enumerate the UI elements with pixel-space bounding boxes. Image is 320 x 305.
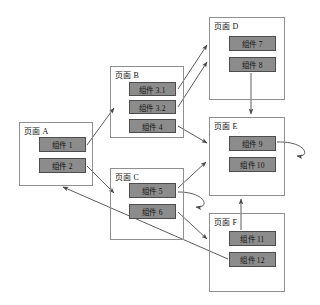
component-c10[interactable]: 组件 10 (229, 157, 276, 172)
component-c6[interactable]: 组件 6 (129, 204, 176, 219)
component-c4[interactable]: 组件 4 (129, 119, 176, 133)
component-c12[interactable]: 组件 12 (229, 252, 276, 267)
page-label-f: 页面 F (214, 216, 237, 227)
page-label-e: 页面 E (214, 120, 238, 131)
page-label-c: 页面 C (115, 171, 139, 182)
component-c8[interactable]: 组件 8 (229, 57, 276, 72)
component-c5[interactable]: 组件 5 (129, 183, 176, 198)
diagram-canvas: 页面 A组件 1组件 2页面 B组件 3.1组件 3.2组件 4页面 C组件 5… (0, 0, 320, 305)
component-c7[interactable]: 组件 7 (229, 36, 276, 51)
page-label-d: 页面 D (214, 20, 239, 31)
component-c1[interactable]: 组件 1 (39, 137, 86, 152)
component-c32[interactable]: 组件 3.2 (129, 100, 176, 114)
page-label-a: 页面 A (24, 125, 49, 136)
page-label-b: 页面 B (115, 69, 139, 80)
component-c2[interactable]: 组件 2 (39, 158, 86, 173)
component-c11[interactable]: 组件 11 (229, 231, 276, 246)
component-c9[interactable]: 组件 9 (229, 136, 276, 151)
component-c31[interactable]: 组件 3.1 (129, 82, 176, 96)
page-box-a[interactable]: 页面 A (19, 122, 93, 186)
